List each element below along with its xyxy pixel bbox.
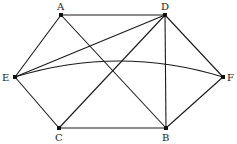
edge-d-b (165, 15, 166, 128)
label-f: F (227, 72, 234, 83)
label-c: C (55, 132, 63, 143)
vertex-d (163, 13, 167, 17)
edge-d-c (59, 15, 165, 128)
vertex-f (221, 75, 225, 79)
labels-group: ADEFCB (2, 1, 234, 143)
graph-diagram: ADEFCB (0, 0, 237, 144)
label-a: A (56, 1, 65, 12)
edge-b-f (166, 77, 223, 128)
label-e: E (2, 72, 9, 83)
edge-d-f (165, 15, 223, 77)
vertex-c (57, 126, 61, 130)
vertex-e (13, 75, 17, 79)
edge-e-c (15, 77, 59, 128)
label-d: D (161, 1, 169, 12)
label-b: B (162, 132, 169, 143)
vertex-a (59, 13, 63, 17)
vertices-group (13, 13, 225, 130)
vertex-b (164, 126, 168, 130)
edges-group (15, 15, 223, 128)
edge-a-b (61, 15, 166, 128)
